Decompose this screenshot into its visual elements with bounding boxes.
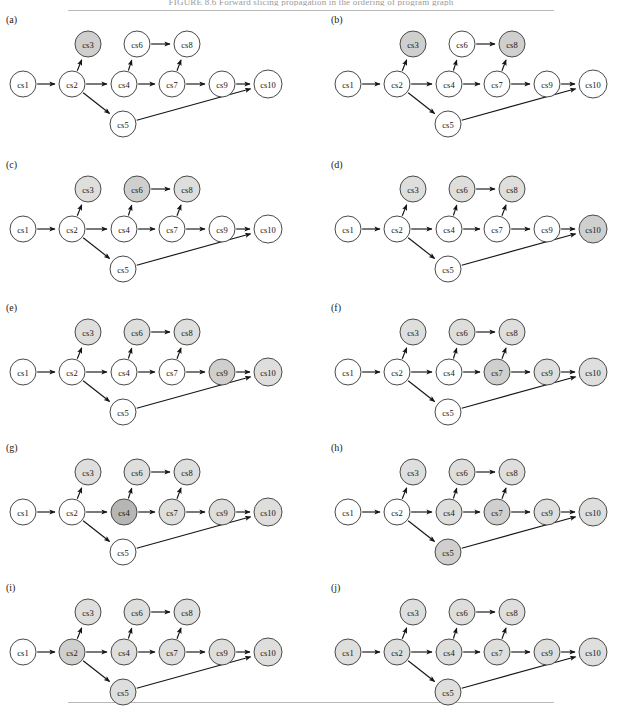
node-circle-cs9 xyxy=(209,71,235,97)
node-circle-cs9 xyxy=(534,359,560,385)
node-circle-cs2 xyxy=(384,499,410,525)
node-cs2: cs2 xyxy=(384,216,410,242)
node-cs10: cs10 xyxy=(254,70,282,98)
node-circle-cs5 xyxy=(435,111,461,137)
node-cs2: cs2 xyxy=(384,499,410,525)
node-cs6: cs6 xyxy=(124,176,150,202)
node-circle-cs2 xyxy=(59,216,85,242)
edge-cs2-to-cs3 xyxy=(77,60,81,71)
node-cs8: cs8 xyxy=(174,319,200,345)
edge-cs7-to-cs8 xyxy=(502,348,506,359)
node-circle-cs6 xyxy=(449,599,475,625)
node-cs3: cs3 xyxy=(75,176,101,202)
node-cs7: cs7 xyxy=(484,71,510,97)
node-circle-cs3 xyxy=(75,599,101,625)
node-circle-cs9 xyxy=(534,71,560,97)
node-circle-cs10 xyxy=(579,70,607,98)
node-circle-cs10 xyxy=(254,358,282,386)
edge-cs7-to-cs8 xyxy=(177,205,181,216)
node-circle-cs1 xyxy=(335,71,361,97)
node-cs5: cs5 xyxy=(435,539,461,565)
node-cs3: cs3 xyxy=(400,176,426,202)
node-cs1: cs1 xyxy=(10,71,36,97)
edge-cs2-to-cs3 xyxy=(402,628,406,639)
node-cs9: cs9 xyxy=(534,71,560,97)
node-circle-cs2 xyxy=(384,639,410,665)
edge-cs2-to-cs5 xyxy=(83,381,109,402)
node-cs3: cs3 xyxy=(75,31,101,57)
node-circle-cs8 xyxy=(174,31,200,57)
node-cs10: cs10 xyxy=(254,498,282,526)
node-circle-cs4 xyxy=(111,71,137,97)
node-circle-cs5 xyxy=(110,679,136,705)
node-circle-cs9 xyxy=(209,639,235,665)
node-cs4: cs4 xyxy=(436,71,462,97)
node-circle-cs8 xyxy=(499,319,525,345)
edge-cs5-to-cs10 xyxy=(462,89,576,120)
node-cs1: cs1 xyxy=(335,639,361,665)
node-cs4: cs4 xyxy=(436,216,462,242)
node-cs9: cs9 xyxy=(209,359,235,385)
panel-h: (h)cs1cs2cs3cs4cs5cs6cs7cs8cs9cs10 xyxy=(325,440,622,580)
edge-cs4-to-cs6 xyxy=(453,488,456,498)
node-cs9: cs9 xyxy=(534,639,560,665)
edge-cs2-to-cs5 xyxy=(408,661,434,682)
edge-cs2-to-cs3 xyxy=(402,60,406,71)
node-cs10: cs10 xyxy=(254,638,282,666)
node-cs10: cs10 xyxy=(254,358,282,386)
panel-a: (a)cs1cs2cs3cs4cs5cs6cs7cs8cs9cs10 xyxy=(0,12,300,152)
edge-cs5-to-cs10 xyxy=(137,377,251,408)
node-circle-cs3 xyxy=(400,599,426,625)
panel-i: (i)cs1cs2cs3cs4cs5cs6cs7cs8cs9cs10 xyxy=(0,580,300,710)
edge-cs7-to-cs8 xyxy=(502,205,506,216)
edge-cs2-to-cs5 xyxy=(408,238,434,259)
node-circle-cs8 xyxy=(499,459,525,485)
edge-cs2-to-cs5 xyxy=(83,521,109,542)
node-cs6: cs6 xyxy=(449,319,475,345)
node-circle-cs3 xyxy=(400,319,426,345)
node-cs6: cs6 xyxy=(449,31,475,57)
node-cs5: cs5 xyxy=(110,399,136,425)
node-cs5: cs5 xyxy=(435,111,461,137)
node-cs10: cs10 xyxy=(579,215,607,243)
edge-cs2-to-cs3 xyxy=(77,488,81,499)
node-circle-cs7 xyxy=(159,499,185,525)
node-circle-cs5 xyxy=(110,399,136,425)
node-circle-cs6 xyxy=(124,599,150,625)
node-circle-cs3 xyxy=(75,319,101,345)
panel-c: (c)cs1cs2cs3cs4cs5cs6cs7cs8cs9cs10 xyxy=(0,157,300,297)
edge-cs5-to-cs10 xyxy=(462,234,576,265)
graph-j: cs1cs2cs3cs4cs5cs6cs7cs8cs9cs10 xyxy=(325,580,622,710)
edge-cs5-to-cs10 xyxy=(137,89,251,120)
node-cs6: cs6 xyxy=(124,599,150,625)
edge-cs2-to-cs3 xyxy=(77,205,81,216)
node-circle-cs2 xyxy=(59,71,85,97)
edge-cs4-to-cs6 xyxy=(453,60,456,70)
node-cs9: cs9 xyxy=(209,71,235,97)
node-cs10: cs10 xyxy=(579,638,607,666)
edge-cs2-to-cs5 xyxy=(408,93,434,114)
edge-cs7-to-cs8 xyxy=(177,628,181,639)
edge-cs4-to-cs6 xyxy=(453,205,456,215)
node-cs4: cs4 xyxy=(436,359,462,385)
node-cs1: cs1 xyxy=(10,499,36,525)
node-cs9: cs9 xyxy=(534,499,560,525)
node-cs6: cs6 xyxy=(124,319,150,345)
node-circle-cs7 xyxy=(159,639,185,665)
panel-g: (g)cs1cs2cs3cs4cs5cs6cs7cs8cs9cs10 xyxy=(0,440,300,580)
node-cs1: cs1 xyxy=(10,359,36,385)
node-circle-cs10 xyxy=(254,498,282,526)
node-cs6: cs6 xyxy=(124,31,150,57)
node-circle-cs4 xyxy=(111,359,137,385)
node-cs4: cs4 xyxy=(111,639,137,665)
edge-cs5-to-cs10 xyxy=(137,657,251,688)
node-circle-cs5 xyxy=(435,256,461,282)
node-circle-cs1 xyxy=(10,639,36,665)
node-circle-cs10 xyxy=(579,638,607,666)
node-cs3: cs3 xyxy=(400,319,426,345)
node-circle-cs9 xyxy=(209,499,235,525)
graph-b: cs1cs2cs3cs4cs5cs6cs7cs8cs9cs10 xyxy=(325,12,622,152)
node-circle-cs9 xyxy=(534,639,560,665)
node-circle-cs8 xyxy=(174,319,200,345)
node-circle-cs6 xyxy=(124,31,150,57)
